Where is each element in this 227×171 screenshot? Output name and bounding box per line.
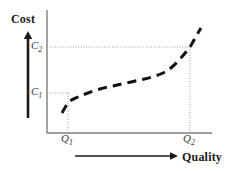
x-tick-label-q2: Q2 [183, 133, 195, 147]
x-tick-q1-base: Q [61, 132, 69, 144]
y-tick-c2-subscript: 2 [38, 45, 42, 54]
y-axis-title: Cost [11, 13, 35, 25]
guide-lines-group [47, 47, 191, 133]
y-tick-c1-subscript: 1 [38, 91, 42, 100]
x-axis-title: Quality [182, 151, 222, 163]
cost-curve [62, 28, 201, 113]
cost-vs-quality-diagram: Cost Quality C2 C1 Q1 Q2 [0, 0, 227, 171]
increasing-cost-arrow-head [24, 31, 32, 39]
increasing-quality-arrow-head [170, 152, 178, 160]
y-tick-label-c1: C1 [31, 86, 42, 100]
x-tick-q1-subscript: 1 [69, 138, 73, 147]
y-tick-label-c2: C2 [31, 40, 42, 54]
x-tick-q2-base: Q [183, 132, 191, 144]
x-tick-q2-subscript: 2 [191, 138, 195, 147]
x-tick-label-q1: Q1 [61, 133, 73, 147]
